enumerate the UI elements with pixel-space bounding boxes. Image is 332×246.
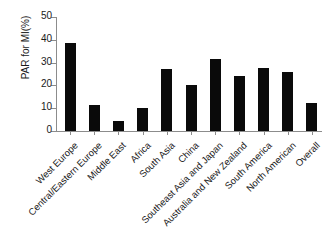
x-tick-mark xyxy=(167,132,168,135)
x-tick-mark xyxy=(70,132,71,135)
x-tick-mark xyxy=(312,132,313,135)
plot-area: 01020304050 xyxy=(56,17,322,131)
x-tick-mark xyxy=(288,132,289,135)
x-tick-mark xyxy=(215,132,216,135)
x-tick-mark xyxy=(143,132,144,135)
bar xyxy=(234,76,245,131)
x-tick-mark xyxy=(239,132,240,135)
bar xyxy=(161,69,172,131)
x-tick-mark xyxy=(118,132,119,135)
bar xyxy=(89,105,100,131)
x-tick-mark xyxy=(94,132,95,135)
bar-chart: PAR for MI(%) 01020304050 West EuropeCen… xyxy=(0,0,332,246)
bar xyxy=(306,103,317,131)
bar xyxy=(258,68,269,131)
bar xyxy=(113,121,124,131)
bar xyxy=(282,72,293,131)
y-tick-label: 40 xyxy=(41,33,52,45)
x-axis-line xyxy=(56,131,322,132)
y-tick-label: 10 xyxy=(41,101,52,113)
bar xyxy=(65,43,76,131)
y-axis-title: PAR for MI(%) xyxy=(20,0,31,103)
x-tick-mark xyxy=(191,132,192,135)
y-tick-label: 20 xyxy=(41,78,52,90)
bar xyxy=(186,85,197,132)
x-tick-mark xyxy=(264,132,265,135)
y-axis-line xyxy=(56,17,57,132)
bar xyxy=(210,59,221,131)
y-tick-label: 30 xyxy=(41,56,52,68)
y-tick-label: 50 xyxy=(41,10,52,22)
bar xyxy=(137,108,148,131)
y-tick-label: 0 xyxy=(46,124,52,136)
